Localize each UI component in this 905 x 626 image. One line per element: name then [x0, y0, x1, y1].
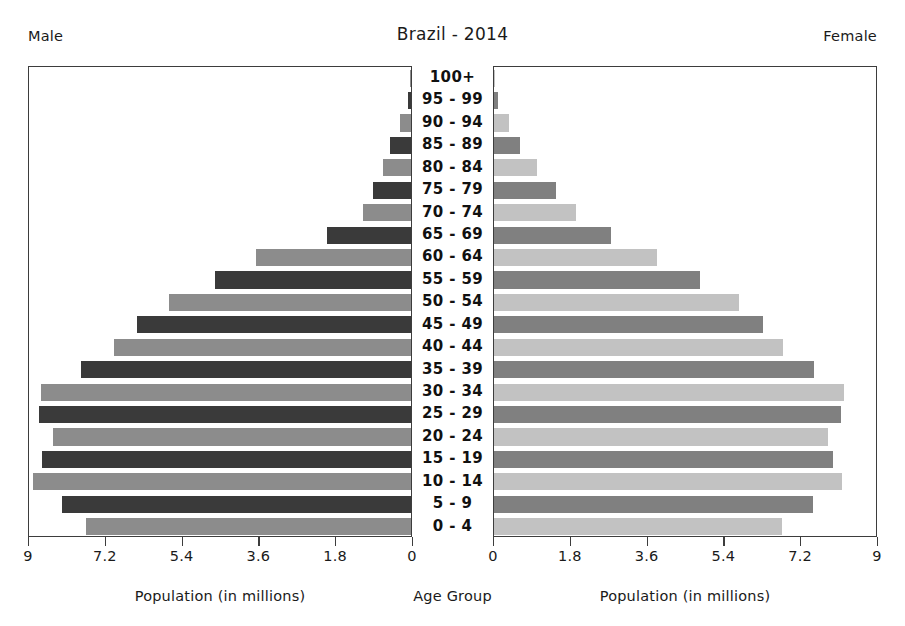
female-bar [494, 451, 833, 468]
table-row [29, 269, 411, 291]
male-bar [215, 271, 411, 288]
female-x-axis: 01.83.65.47.29 [493, 537, 877, 567]
table-row [29, 224, 411, 246]
female-side-label: Female [823, 28, 877, 44]
male-plot-area [28, 66, 412, 537]
female-bar [494, 204, 576, 221]
table-row [29, 448, 411, 470]
table-row [494, 448, 876, 470]
male-bar-rows [29, 67, 411, 536]
age-group-label: 80 - 84 [412, 156, 493, 178]
table-row [29, 314, 411, 336]
age-group-label: 45 - 49 [412, 313, 493, 335]
male-bar [373, 182, 411, 199]
male-bar [410, 70, 411, 87]
axis-tick-label: 9 [847, 548, 905, 564]
female-bar [494, 249, 657, 266]
age-group-label: 90 - 94 [412, 111, 493, 133]
age-group-label: 60 - 64 [412, 245, 493, 267]
table-row [494, 291, 876, 313]
axis-tick [877, 537, 878, 546]
age-group-label: 15 - 19 [412, 447, 493, 469]
age-group-label: 0 - 4 [412, 515, 493, 537]
age-group-label: 40 - 44 [412, 335, 493, 357]
female-bar [494, 406, 841, 423]
male-bar [390, 137, 411, 154]
female-bar [494, 473, 842, 490]
male-bar [86, 518, 411, 535]
axis-tick [570, 537, 571, 546]
female-bar-rows [494, 67, 876, 536]
female-bar [494, 361, 814, 378]
female-bar [494, 339, 783, 356]
table-row [494, 403, 876, 425]
male-bar [137, 316, 411, 333]
table-row [29, 493, 411, 515]
table-row [494, 381, 876, 403]
male-bar [41, 384, 411, 401]
table-row [29, 179, 411, 201]
table-row [494, 359, 876, 381]
male-bar [39, 406, 411, 423]
axis-tick [105, 537, 106, 546]
table-row [29, 89, 411, 111]
axis-tick [647, 537, 648, 546]
male-bar [327, 227, 411, 244]
table-row [494, 134, 876, 156]
axis-tick-label: 5.4 [152, 548, 212, 564]
axis-tick-label: 3.6 [228, 548, 288, 564]
male-bar [81, 361, 411, 378]
age-group-label: 30 - 34 [412, 380, 493, 402]
age-group-label: 50 - 54 [412, 290, 493, 312]
table-row [29, 471, 411, 493]
axis-tick [800, 537, 801, 546]
female-bar [494, 114, 509, 131]
age-group-label: 85 - 89 [412, 133, 493, 155]
male-bar [114, 339, 411, 356]
table-row [494, 471, 876, 493]
table-row [29, 516, 411, 537]
axis-tick [723, 537, 724, 546]
table-row [29, 134, 411, 156]
female-bar [494, 70, 495, 87]
female-bar [494, 294, 739, 311]
table-row [29, 426, 411, 448]
axis-tick [28, 537, 29, 546]
male-bar [169, 294, 411, 311]
female-bar [494, 316, 763, 333]
table-row [494, 224, 876, 246]
male-bar [42, 451, 411, 468]
age-group-label: 5 - 9 [412, 492, 493, 514]
age-group-label: 65 - 69 [412, 223, 493, 245]
age-group-label: 35 - 39 [412, 358, 493, 380]
female-bar [494, 384, 844, 401]
table-row [29, 291, 411, 313]
female-bar [494, 518, 782, 535]
male-bar [408, 92, 411, 109]
table-row [494, 157, 876, 179]
table-row [494, 516, 876, 537]
age-group-label: 55 - 59 [412, 268, 493, 290]
female-bar [494, 159, 537, 176]
male-bar [62, 496, 411, 513]
table-row [29, 381, 411, 403]
female-bar [494, 271, 700, 288]
female-bar [494, 496, 813, 513]
axis-tick-label: 7.2 [75, 548, 135, 564]
female-bar [494, 137, 520, 154]
age-group-label: 25 - 29 [412, 402, 493, 424]
table-row [494, 426, 876, 448]
axis-tick-label: 1.8 [540, 548, 600, 564]
table-row [494, 179, 876, 201]
age-group-label: 20 - 24 [412, 425, 493, 447]
table-row [494, 336, 876, 358]
age-group-label: 100+ [412, 66, 493, 88]
axis-tick-label: 0 [463, 548, 523, 564]
table-row [29, 112, 411, 134]
axis-tick [335, 537, 336, 546]
female-bar [494, 92, 498, 109]
male-bar [53, 428, 411, 445]
age-group-label: 75 - 79 [412, 178, 493, 200]
table-row [29, 359, 411, 381]
table-row [494, 493, 876, 515]
